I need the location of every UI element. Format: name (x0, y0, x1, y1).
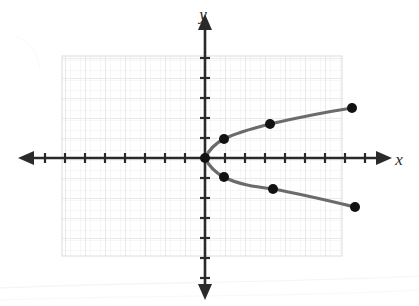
data-point (350, 202, 360, 212)
coordinate-plane-svg: y x (0, 0, 419, 306)
data-point (219, 134, 229, 144)
data-point (219, 172, 229, 182)
y-axis-label: y (197, 5, 207, 24)
data-point (268, 184, 278, 194)
data-point (200, 153, 210, 163)
x-axis-label: x (394, 150, 403, 169)
data-point (265, 119, 275, 129)
data-point (347, 103, 357, 113)
